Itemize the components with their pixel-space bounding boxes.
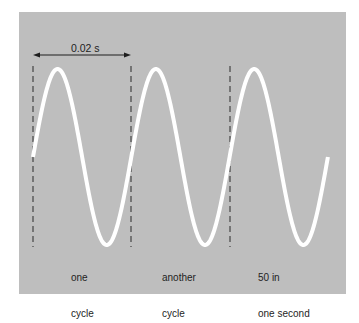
label-another-cycle: another cycle [162,248,196,323]
sine-wave [33,69,328,245]
label-fifty-per-second: 50 in one second [258,248,310,323]
arrowhead-right-icon [124,53,131,58]
label-one-cycle: one cycle [71,248,94,323]
period-label: 0.02 s [71,42,100,54]
arrowhead-left-icon [33,53,40,58]
